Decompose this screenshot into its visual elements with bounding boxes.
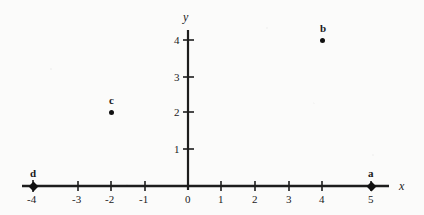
y-tick-label-2: 2	[174, 107, 180, 118]
x-tick-label--1: -1	[139, 194, 148, 205]
point-label-c: c	[109, 95, 114, 106]
x-tick-label-5: 5	[368, 194, 374, 205]
y-tick-label-1: 1	[174, 144, 180, 155]
point-marker-c[interactable]	[109, 110, 114, 115]
x-tick-label-1: 1	[218, 194, 224, 205]
point-label-a: a	[368, 168, 374, 179]
y-tick-label-3: 3	[174, 72, 180, 83]
point-marker-b[interactable]	[320, 38, 325, 43]
x-axis-label: x	[399, 180, 404, 192]
coordinate-plane	[0, 0, 424, 215]
point-marker-d[interactable]	[28, 181, 38, 191]
y-axis-label: y	[183, 11, 188, 23]
x-tick-label--3: -3	[72, 194, 81, 205]
x-tick-label-2: 2	[252, 194, 258, 205]
point-marker-a[interactable]	[366, 181, 376, 191]
x-tick-label--4: -4	[27, 194, 36, 205]
x-tick-label-3: 3	[286, 194, 292, 205]
point-label-d: d	[30, 168, 36, 179]
y-tick-label-4: 4	[174, 35, 180, 46]
x-tick-label--2: -2	[105, 194, 114, 205]
x-tick-label-0: 0	[185, 194, 191, 205]
x-tick-label-4: 4	[319, 194, 325, 205]
point-label-b: b	[320, 23, 326, 34]
